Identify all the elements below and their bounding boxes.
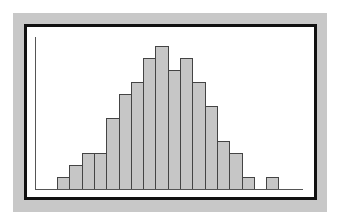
histogram-bar <box>106 118 120 189</box>
histogram-bar <box>242 177 255 189</box>
histogram-bar <box>192 82 206 189</box>
histogram-bar <box>69 165 83 189</box>
histogram-bar <box>155 46 169 189</box>
histogram-bar <box>266 177 279 189</box>
x-axis <box>35 189 303 190</box>
histogram-bar <box>229 153 243 189</box>
y-axis <box>35 37 36 189</box>
histogram-plot <box>0 0 343 218</box>
